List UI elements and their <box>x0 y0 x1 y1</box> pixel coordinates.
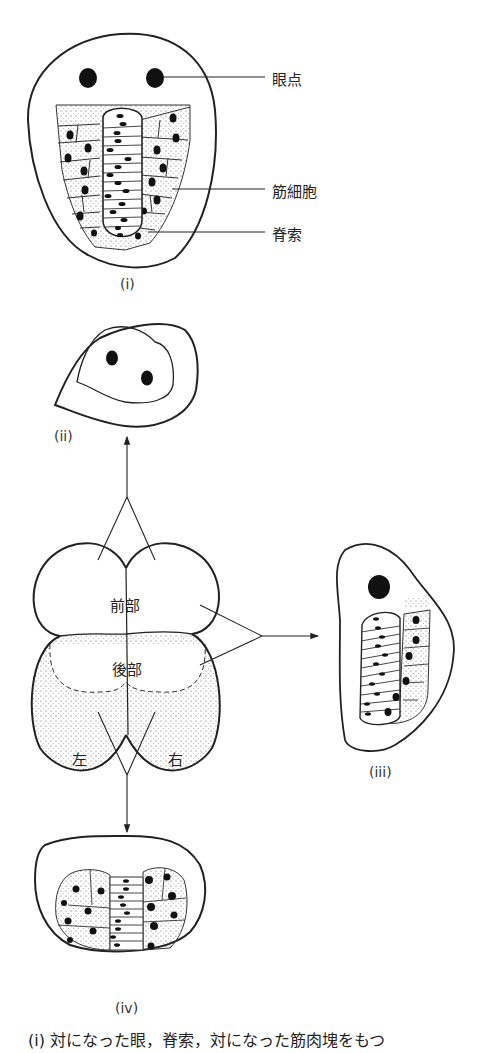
figure-i-larva <box>28 34 265 268</box>
label-left: 左 <box>72 748 87 769</box>
eye-spot-icon <box>141 371 153 386</box>
label-eye-spot: 眼点 <box>272 68 302 89</box>
label-posterior: 後部 <box>112 658 142 679</box>
figure-caption: (i) 対になった眼，脊索，対になった筋肉塊をもつ <box>28 1027 385 1051</box>
diagram-canvas <box>0 0 497 1053</box>
eye-spot-left-icon <box>79 68 97 88</box>
arrow-to-ii <box>98 437 155 560</box>
label-notochord: 脊索 <box>272 223 302 244</box>
figure-iii-label: (iii) <box>369 764 392 780</box>
figure-ii-label: (ii) <box>54 428 73 444</box>
eye-spot-icon <box>368 575 390 599</box>
eye-spot-icon <box>106 351 118 366</box>
figure-iii-fragment <box>337 544 454 751</box>
figure-i-label: (i) <box>120 276 135 292</box>
figure-iv-fragment <box>35 836 205 951</box>
arrow-to-iii <box>200 605 318 665</box>
label-anterior: 前部 <box>110 594 140 615</box>
label-muscle-cell: 筋細胞 <box>272 180 317 201</box>
eye-spot-right-icon <box>146 68 164 88</box>
label-right: 右 <box>168 748 183 769</box>
figure-iv-label: (iv) <box>115 1000 138 1016</box>
figure-ii-fragment <box>55 324 198 427</box>
embryo-8-cell <box>32 543 221 770</box>
